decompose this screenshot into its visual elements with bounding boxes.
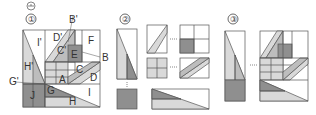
svg-text:H: H bbox=[69, 96, 76, 107]
panel-2-number: ② bbox=[120, 14, 130, 24]
svg-text:I: I bbox=[88, 87, 91, 98]
svg-text:I': I' bbox=[37, 37, 42, 48]
header-symbol bbox=[27, 2, 35, 10]
svg-text:①: ① bbox=[28, 15, 35, 24]
svg-text:G: G bbox=[47, 85, 55, 96]
panel-3-pieces bbox=[225, 31, 308, 101]
panel-1-number: ① bbox=[26, 14, 36, 24]
svg-text:G': G' bbox=[9, 76, 19, 87]
panel-3-number: ③ bbox=[228, 14, 238, 24]
svg-text:②: ② bbox=[122, 15, 129, 24]
panel-2-pieces bbox=[117, 25, 209, 109]
svg-text:D: D bbox=[90, 72, 97, 83]
svg-text:③: ③ bbox=[230, 15, 237, 24]
svg-text:A: A bbox=[59, 74, 66, 85]
svg-text:J: J bbox=[30, 90, 35, 101]
svg-text:H': H' bbox=[24, 61, 33, 72]
diagram-canvas: ① I' D' bbox=[0, 0, 316, 115]
svg-text:C': C' bbox=[57, 45, 66, 56]
svg-text:F: F bbox=[88, 35, 94, 46]
svg-text:D': D' bbox=[53, 32, 62, 43]
svg-text:E: E bbox=[71, 49, 78, 60]
svg-text:C: C bbox=[76, 64, 83, 75]
svg-text:B': B' bbox=[69, 14, 78, 25]
svg-text:B: B bbox=[102, 52, 109, 63]
